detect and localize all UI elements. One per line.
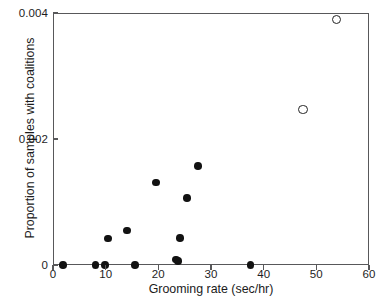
plot-area bbox=[53, 13, 369, 265]
y-axis-label: Proportion of samples with coalitions bbox=[23, 13, 37, 263]
scatter-plot-figure: 0102030405060 00.0020.004 Grooming rate … bbox=[0, 0, 377, 300]
x-tick-label: 10 bbox=[86, 268, 126, 281]
x-tick-label: 20 bbox=[138, 268, 178, 281]
x-tick-label: 40 bbox=[244, 268, 284, 281]
y-axis-tick bbox=[53, 138, 58, 139]
x-tick-label: 50 bbox=[296, 268, 336, 281]
y-axis-tick bbox=[53, 264, 58, 265]
x-axis-label: Grooming rate (sec/hr) bbox=[53, 282, 369, 296]
x-tick-label: 60 bbox=[349, 268, 377, 281]
x-tick-label: 30 bbox=[191, 268, 231, 281]
y-axis-tick bbox=[53, 12, 58, 13]
